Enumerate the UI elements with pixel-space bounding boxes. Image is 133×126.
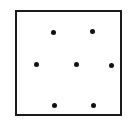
- figure-canvas: [0, 0, 133, 126]
- points-layer: [0, 0, 133, 126]
- dot-top-right: [90, 29, 95, 34]
- dot-bottom-right: [91, 103, 96, 108]
- dot-top-left: [51, 30, 56, 35]
- dot-middle-center: [74, 62, 79, 67]
- dot-bottom-left: [52, 103, 57, 108]
- dot-middle-left: [34, 62, 39, 67]
- dot-middle-right: [109, 63, 114, 68]
